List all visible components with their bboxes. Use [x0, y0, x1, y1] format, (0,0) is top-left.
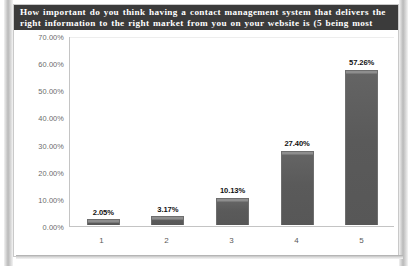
- y-axis-ticks: 0.00%10.00%20.00%30.00%40.00%50.00%60.00…: [14, 31, 68, 231]
- bar: [216, 198, 249, 225]
- y-axis-tick-label: 60.00%: [14, 60, 64, 69]
- bar-group: 27.40%: [281, 37, 314, 225]
- bar-series: 2.05%3.17%10.13%27.40%57.26%: [71, 37, 394, 225]
- bar: [87, 219, 120, 225]
- x-axis-tick-label: 4: [280, 236, 313, 245]
- card-bottom-shadow: [16, 255, 403, 259]
- page-edge-shadow-left: [4, 0, 13, 266]
- bar: [345, 70, 378, 225]
- y-axis-tick-label: 10.00%: [14, 195, 64, 204]
- y-axis-tick-label: 40.00%: [14, 114, 64, 123]
- x-axis-tick-label: 2: [150, 236, 183, 245]
- x-axis-ticks: 12345: [69, 231, 394, 251]
- bar-group: 3.17%: [151, 37, 184, 225]
- bar-group: 2.05%: [87, 37, 120, 225]
- chart-title: How important do you think having a cont…: [20, 7, 392, 30]
- bar-value-label: 10.13%: [220, 186, 245, 195]
- y-axis-tick-label: 0.00%: [14, 223, 64, 232]
- bar-group: 10.13%: [216, 37, 249, 225]
- bar-value-label: 2.05%: [93, 208, 114, 217]
- y-axis-tick-label: 50.00%: [14, 87, 64, 96]
- y-axis-tick-label: 20.00%: [14, 168, 64, 177]
- bar: [281, 151, 314, 225]
- x-axis-tick-label: 1: [85, 236, 118, 245]
- bar-group: 57.26%: [345, 37, 378, 225]
- plot-area: 2.05%3.17%10.13%27.40%57.26%: [69, 37, 394, 227]
- x-axis-tick-label: 5: [345, 236, 378, 245]
- y-axis-tick-label: 70.00%: [14, 33, 64, 42]
- page-edge-shadow-right: [399, 0, 408, 266]
- chart-title-bar: How important do you think having a cont…: [14, 5, 398, 30]
- y-axis-tick-label: 30.00%: [14, 141, 64, 150]
- bar: [151, 216, 184, 225]
- x-axis-tick-label: 3: [215, 236, 248, 245]
- scanned-page: How important do you think having a cont…: [0, 0, 416, 266]
- bar-value-label: 27.40%: [285, 139, 310, 148]
- bar-value-label: 57.26%: [349, 58, 374, 67]
- bar-value-label: 3.17%: [157, 205, 178, 214]
- chart-plot-wrapper: 0.00%10.00%20.00%30.00%40.00%50.00%60.00…: [14, 31, 398, 253]
